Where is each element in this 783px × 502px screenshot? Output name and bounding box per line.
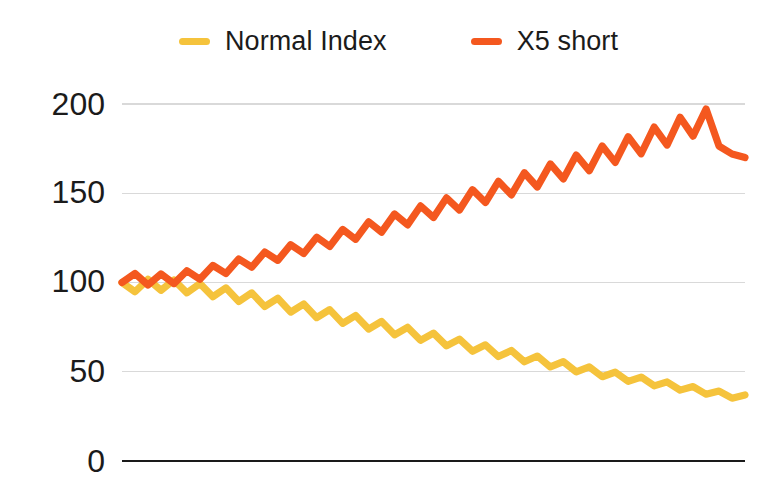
chart-container: Normal Index X5 short 200 150 100 50 0 bbox=[0, 0, 783, 502]
series-lines bbox=[122, 109, 745, 398]
plot-area bbox=[0, 0, 783, 502]
series-line-normal-index bbox=[122, 279, 745, 398]
series-line-x5-short bbox=[122, 109, 745, 285]
plot-svg bbox=[0, 0, 783, 502]
